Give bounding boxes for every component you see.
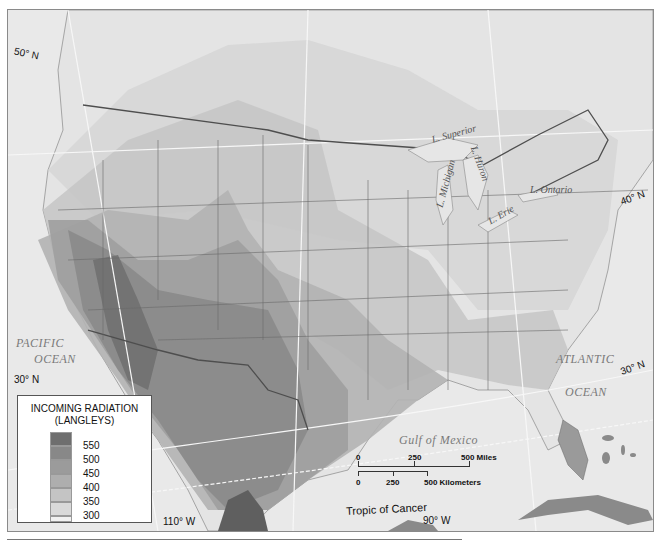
legend-swatch-300 — [50, 502, 72, 516]
legend-label-300: 300 — [83, 510, 100, 521]
scale-km-250: 250 — [386, 478, 399, 487]
legend-label-450: 450 — [83, 468, 100, 479]
radiation-map: 50° N 40° N 30° N 30° N 110° W 90° W PAC… — [7, 9, 654, 532]
legend-title: INCOMING RADIATION (LANGLEYS) — [18, 403, 151, 427]
legend-swatch-below-300 — [50, 516, 72, 522]
pacific-ocean-label-line2: OCEAN — [34, 352, 76, 367]
atlantic-ocean-label-line1: ATLANTIC — [556, 352, 614, 367]
legend-label-350: 350 — [83, 496, 100, 507]
legend-label-500: 500 — [83, 454, 100, 465]
bottom-rule — [7, 539, 462, 540]
legend-label-400: 400 — [83, 482, 100, 493]
legend-swatch-350 — [50, 488, 72, 502]
legend-swatch-400 — [50, 474, 72, 488]
miles-scale-line — [358, 466, 470, 467]
gulf-of-mexico-label: Gulf of Mexico — [399, 433, 478, 448]
lake-ontario-label: L. Ontario — [530, 184, 572, 195]
scale-miles-500: 500 Miles — [461, 453, 497, 462]
legend-label-550: 550 — [83, 440, 100, 451]
scale-km-0: 0 — [356, 478, 360, 487]
scale-bar: 0 250 500 Miles 0 250 500 Kilometers — [356, 453, 526, 493]
atlantic-ocean-label-line2: OCEAN — [565, 385, 607, 400]
legend-swatch-550 — [50, 432, 72, 446]
legend-swatch-500 — [50, 446, 72, 460]
legend-swatch-450 — [50, 460, 72, 474]
longitude-90w-label: 90° W — [423, 515, 450, 526]
scale-km-500: 500 Kilometers — [424, 478, 481, 487]
latitude-30n-west-label: 30° N — [14, 374, 39, 385]
legend: INCOMING RADIATION (LANGLEYS) 550 500 45… — [17, 395, 152, 523]
pacific-ocean-label-line1: PACIFIC — [16, 336, 64, 351]
longitude-110w-label: 110° W — [163, 516, 195, 527]
